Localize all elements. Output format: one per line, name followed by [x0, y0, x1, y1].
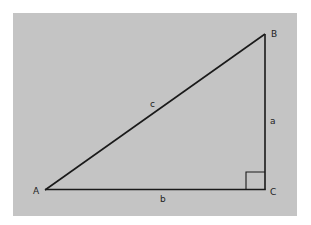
side-label-a: a — [270, 116, 276, 126]
diagram-background — [13, 13, 297, 216]
vertex-label-b: B — [271, 29, 277, 39]
vertex-label-a: A — [33, 186, 40, 196]
right-triangle-diagram: A B C c a b — [0, 0, 311, 225]
side-label-b: b — [160, 194, 166, 204]
vertex-label-c: C — [270, 187, 276, 197]
side-label-c: c — [150, 99, 155, 109]
